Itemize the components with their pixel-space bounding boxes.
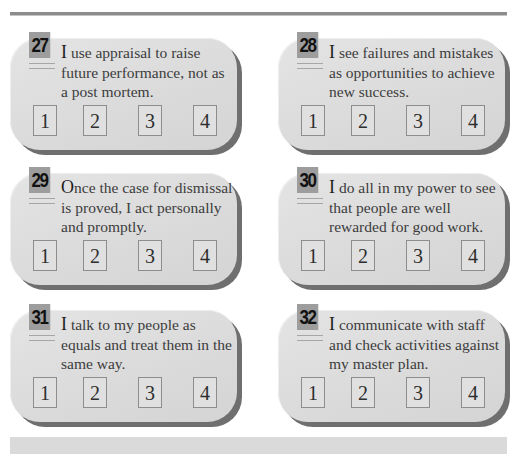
- top-rule: [10, 12, 507, 16]
- statement-text: communicate with staff and check activit…: [329, 316, 499, 372]
- badge-underline: [297, 335, 323, 341]
- rating-options: 1 2 3 4: [301, 240, 487, 272]
- question-number-badge: 29: [29, 167, 50, 193]
- badge-underline: [297, 198, 323, 204]
- rating-option-1[interactable]: 1: [33, 377, 57, 408]
- rating-option-2[interactable]: 2: [83, 240, 107, 271]
- question-statement: I communicate with staff and check activ…: [329, 315, 501, 374]
- rating-option-4[interactable]: 4: [193, 105, 217, 136]
- bottom-band: [10, 437, 507, 454]
- badge-underline: [29, 335, 55, 341]
- statement-initial: O: [61, 177, 74, 197]
- question-number-badge: 30: [297, 167, 318, 193]
- rating-option-2[interactable]: 2: [351, 240, 375, 271]
- statement-text: see failures and mistakes as opportuniti…: [329, 44, 495, 100]
- rating-option-2[interactable]: 2: [351, 377, 375, 408]
- question-statement: I do all in my power to see that people …: [329, 178, 501, 237]
- question-card-29: 29 Once the case for dismissal is proved…: [10, 173, 237, 285]
- question-card-30: 30 I do all in my power to see that peop…: [278, 173, 505, 285]
- rating-option-1[interactable]: 1: [33, 240, 57, 271]
- rating-option-2[interactable]: 2: [83, 105, 107, 136]
- rating-option-3[interactable]: 3: [406, 105, 430, 136]
- rating-option-1[interactable]: 1: [301, 105, 325, 136]
- rating-option-3[interactable]: 3: [138, 105, 162, 136]
- question-number-badge: 27: [29, 32, 50, 58]
- question-statement: I talk to my people as equals and treat …: [61, 315, 233, 374]
- rating-option-3[interactable]: 3: [138, 240, 162, 271]
- question-number-badge: 32: [297, 304, 318, 330]
- statement-text: use appraisal to raise future performanc…: [61, 44, 225, 100]
- question-card-31: 31 I talk to my people as equals and tre…: [10, 310, 237, 422]
- question-statement: I use appraisal to raise future performa…: [61, 43, 233, 102]
- question-number-badge: 28: [297, 32, 318, 58]
- question-statement: I see failures and mistakes as opportuni…: [329, 43, 501, 102]
- rating-option-1[interactable]: 1: [301, 240, 325, 271]
- rating-option-4[interactable]: 4: [193, 377, 217, 408]
- rating-option-2[interactable]: 2: [83, 377, 107, 408]
- badge-underline: [29, 198, 55, 204]
- question-card-27: 27 I use appraisal to raise future perfo…: [10, 38, 237, 150]
- statement-text: nce the case for dismissal is proved, I …: [61, 179, 232, 235]
- rating-option-4[interactable]: 4: [461, 105, 485, 136]
- badge-underline: [29, 63, 55, 69]
- rating-option-4[interactable]: 4: [461, 377, 485, 408]
- question-card-28: 28 I see failures and mistakes as opport…: [278, 38, 505, 150]
- rating-option-4[interactable]: 4: [193, 240, 217, 271]
- rating-option-2[interactable]: 2: [351, 105, 375, 136]
- statement-text: do all in my power to see that people ar…: [329, 179, 496, 235]
- rating-options: 1 2 3 4: [301, 377, 487, 409]
- badge-underline: [297, 63, 323, 69]
- rating-options: 1 2 3 4: [33, 105, 219, 137]
- rating-option-1[interactable]: 1: [301, 377, 325, 408]
- rating-option-3[interactable]: 3: [138, 377, 162, 408]
- question-number-badge: 31: [29, 304, 50, 330]
- rating-option-3[interactable]: 3: [406, 377, 430, 408]
- rating-options: 1 2 3 4: [33, 240, 219, 272]
- rating-options: 1 2 3 4: [301, 105, 487, 137]
- question-card-32: 32 I communicate with staff and check ac…: [278, 310, 505, 422]
- rating-option-3[interactable]: 3: [406, 240, 430, 271]
- rating-options: 1 2 3 4: [33, 377, 219, 409]
- rating-option-1[interactable]: 1: [33, 105, 57, 136]
- question-statement: Once the case for dismissal is proved, I…: [61, 178, 233, 237]
- statement-text: talk to my people as equals and treat th…: [61, 316, 232, 372]
- rating-option-4[interactable]: 4: [461, 240, 485, 271]
